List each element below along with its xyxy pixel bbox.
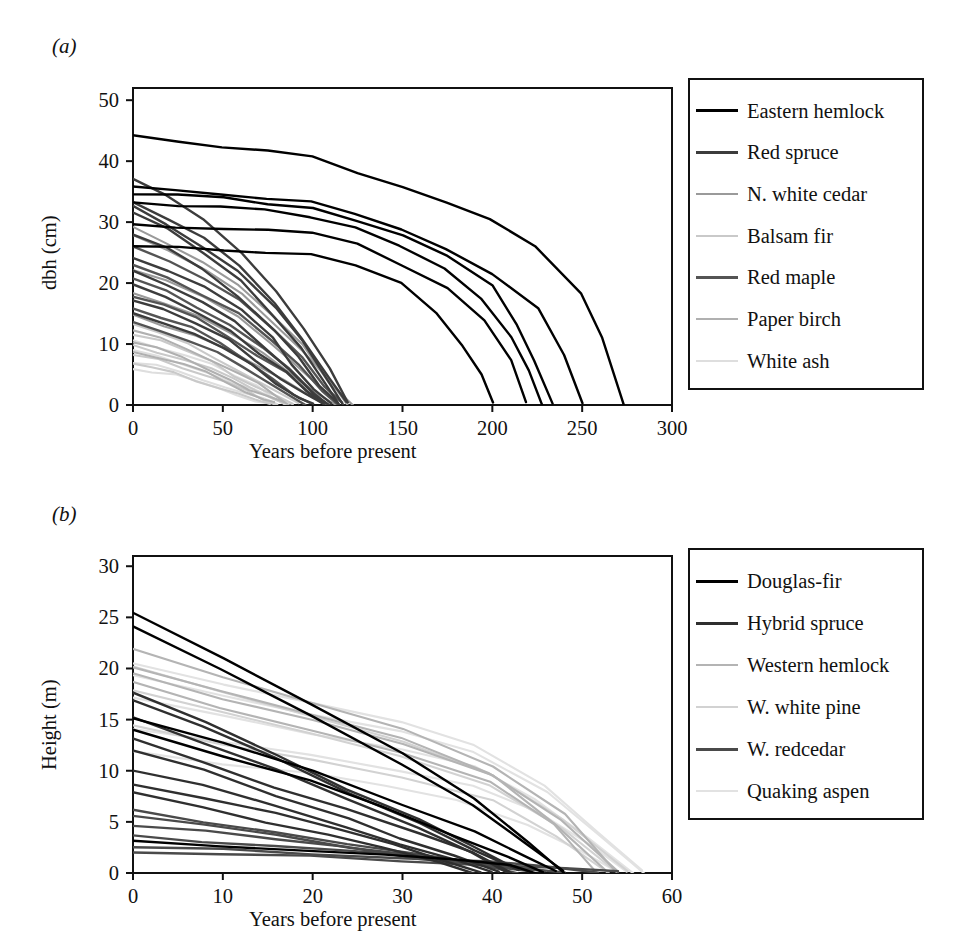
legend-label: Hybrid spruce xyxy=(747,613,864,634)
legend-label: W. redcedar xyxy=(747,739,845,760)
legend-label: Balsam fir xyxy=(747,226,833,247)
legend-item-red-maple[interactable]: Red maple xyxy=(696,257,912,299)
x-tick-label: 0 xyxy=(128,417,138,439)
x-tick-label: 60 xyxy=(662,885,683,907)
y-tick-label: 40 xyxy=(99,150,120,172)
legend-swatch-line xyxy=(696,318,738,320)
legend-swatch-line xyxy=(696,790,738,792)
legend-swatch-line xyxy=(696,622,738,625)
y-tick-label: 0 xyxy=(109,862,119,884)
panel-b-yaxis-title: Height (m) xyxy=(38,679,61,770)
series-group xyxy=(130,135,625,406)
legend-label: N. white cedar xyxy=(747,184,867,205)
x-tick-label: 100 xyxy=(297,417,328,439)
x-tick-label: 250 xyxy=(567,417,598,439)
panel-b-legend: Douglas-firHybrid spruceWestern hemlockW… xyxy=(688,548,924,820)
legend-swatch-line xyxy=(696,276,738,279)
x-tick-label: 10 xyxy=(213,885,234,907)
legend-item-white-ash[interactable]: White ash xyxy=(696,340,912,382)
legend-label: Eastern hemlock xyxy=(747,101,884,122)
legend-item-n-white-cedar[interactable]: N. white cedar xyxy=(696,173,912,215)
x-tick-label: 200 xyxy=(477,417,508,439)
legend-swatch-line xyxy=(696,664,738,666)
y-tick-label: 50 xyxy=(99,89,120,111)
legend-item-balsam-fir[interactable]: Balsam fir xyxy=(696,215,912,257)
legend-item-eastern-hemlock[interactable]: Eastern hemlock xyxy=(696,90,912,132)
y-tick-label: 20 xyxy=(99,657,120,679)
legend-label: Red maple xyxy=(747,267,835,288)
legend-item-quaking-aspen[interactable]: Quaking aspen xyxy=(696,770,912,812)
y-tick-label: 5 xyxy=(109,811,119,833)
legend-item-w-redcedar[interactable]: W. redcedar xyxy=(696,728,912,770)
legend-swatch-line xyxy=(696,193,738,195)
x-tick-label: 150 xyxy=(387,417,418,439)
legend-label: W. white pine xyxy=(747,697,861,718)
x-tick-label: 50 xyxy=(213,417,234,439)
panel-b-xaxis-title: Years before present xyxy=(249,908,417,931)
legend-item-hybrid-spruce[interactable]: Hybrid spruce xyxy=(696,602,912,644)
legend-label: Quaking aspen xyxy=(747,781,869,802)
legend-swatch-line xyxy=(696,109,738,112)
legend-swatch-line xyxy=(696,235,738,237)
y-tick-label: 20 xyxy=(99,272,120,294)
legend-swatch-line xyxy=(696,360,738,362)
y-tick-label: 10 xyxy=(99,333,120,355)
x-tick-label: 30 xyxy=(392,885,413,907)
legend-item-w-white-pine[interactable]: W. white pine xyxy=(696,686,912,728)
panel-a: (a) 05010015020025030001020304050 Years … xyxy=(0,0,967,480)
legend-swatch-line xyxy=(696,580,738,583)
x-tick-label: 0 xyxy=(128,885,138,907)
x-tick-label: 50 xyxy=(572,885,593,907)
legend-swatch-line xyxy=(696,151,738,154)
x-tick-label: 20 xyxy=(302,885,323,907)
legend-swatch-line xyxy=(696,706,738,708)
legend-item-douglas-fir[interactable]: Douglas-fir xyxy=(696,560,912,602)
panel-a-legend: Eastern hemlockRed spruceN. white cedarB… xyxy=(688,78,924,390)
y-tick-label: 25 xyxy=(99,606,120,628)
legend-label: Douglas-fir xyxy=(747,571,842,592)
legend-item-red-spruce[interactable]: Red spruce xyxy=(696,132,912,174)
x-tick-label: 300 xyxy=(657,417,688,439)
panel-a-xaxis-title: Years before present xyxy=(249,440,417,463)
y-tick-label: 30 xyxy=(99,211,120,233)
legend-label: Western hemlock xyxy=(747,655,889,676)
y-tick-label: 15 xyxy=(99,709,120,731)
panel-b: (b) 0102030405060051015202530 Years befo… xyxy=(0,480,967,948)
legend-label: White ash xyxy=(747,351,830,372)
x-tick-label: 40 xyxy=(482,885,503,907)
panel-a-yaxis-title: dbh (cm) xyxy=(38,215,61,290)
y-tick-label: 30 xyxy=(99,555,120,577)
legend-label: Paper birch xyxy=(747,309,841,330)
y-tick-label: 0 xyxy=(109,394,119,416)
series-line xyxy=(132,649,615,871)
legend-item-paper-birch[interactable]: Paper birch xyxy=(696,299,912,341)
legend-swatch-line xyxy=(696,748,738,751)
series-group xyxy=(130,612,645,874)
legend-item-western-hemlock[interactable]: Western hemlock xyxy=(696,644,912,686)
y-tick-label: 10 xyxy=(99,760,120,782)
legend-label: Red spruce xyxy=(747,142,839,163)
